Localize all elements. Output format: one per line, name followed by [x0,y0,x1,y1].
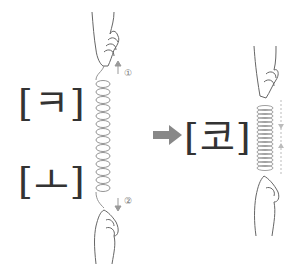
right-top-hand-icon [254,46,278,98]
up-arrow-icon [115,61,121,74]
combined-syllable-label: [코] [184,118,252,156]
diagram-canvas [0,0,299,276]
vowel-label: [ㅗ] [18,162,86,200]
right-bottom-hand-icon [255,176,279,236]
down-arrow-icon [115,198,121,211]
compressed-spring-icon [257,106,273,171]
step-one-marker: ① [124,68,132,78]
top-hand-icon [92,12,119,66]
bottom-hand-icon [95,210,119,264]
right-arrow-icon [153,125,182,145]
stretched-spring-icon [96,66,110,208]
consonant-label: [ㅋ] [18,84,86,122]
step-two-marker: ② [124,196,132,206]
